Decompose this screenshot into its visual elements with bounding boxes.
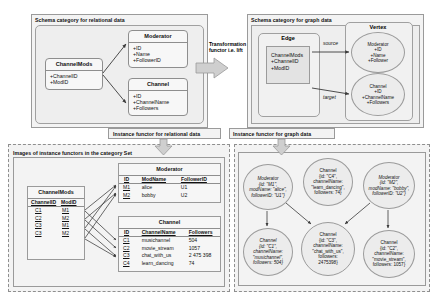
diagram-canvas: Schema category for relational data Chan…	[0, 0, 435, 299]
connector-layer	[0, 0, 435, 299]
